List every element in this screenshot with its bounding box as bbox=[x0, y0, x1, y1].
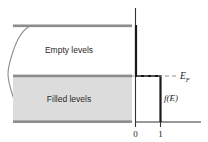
empty-levels-label: Empty levels bbox=[45, 45, 93, 55]
distribution-function-label: f(E) bbox=[164, 93, 178, 103]
figure-canvas: Empty levels Filled levels EF f(E) 0 1 bbox=[0, 0, 208, 142]
tick-label-0: 0 bbox=[133, 129, 138, 139]
fermi-dirac-band-diagram: Empty levels Filled levels EF f(E) 0 1 bbox=[0, 0, 208, 142]
filled-levels-label: Filled levels bbox=[47, 94, 91, 104]
filled-levels-bottom-edge bbox=[13, 120, 132, 123]
tick-label-1: 1 bbox=[158, 129, 163, 139]
fermi-dirac-step-curve bbox=[136, 25, 161, 122]
empty-levels-top-edge bbox=[13, 25, 132, 28]
fermi-energy-label: EF bbox=[179, 71, 191, 83]
fermi-level-band-edge bbox=[13, 75, 132, 78]
fermi-energy-subscript: F bbox=[185, 76, 191, 83]
